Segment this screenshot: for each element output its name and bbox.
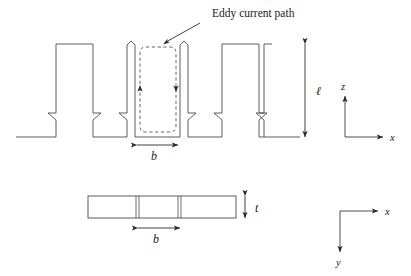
plate-outline (88, 196, 236, 218)
dim-b-label-plan: b (153, 232, 159, 246)
eddy-current-diagram: Eddy current path b ℓ t b z x x y (0, 0, 411, 276)
tooth-3-profile (180, 41, 196, 137)
tooth-4-profile (214, 44, 267, 137)
tooth-2-profile (119, 41, 135, 137)
tooth-5-profile (256, 44, 272, 137)
eddy-current-loop (140, 47, 176, 132)
axis-label-x-elevation: x (389, 132, 395, 143)
axis-label-y: y (335, 257, 341, 268)
callout-arrow-head (163, 39, 170, 45)
figure-container: Eddy current path b ℓ t b z x x y (0, 0, 411, 276)
axes-plan (340, 211, 378, 252)
eddy-arrow-left-up (137, 85, 142, 92)
dim-ell-label: ℓ (316, 84, 321, 98)
axis-label-z: z (340, 81, 345, 92)
axes-elevation (345, 96, 383, 137)
tooth-1-profile (48, 44, 101, 137)
axis-label-x-plan: x (384, 206, 390, 217)
elevation-view (16, 23, 305, 145)
callout-leader-line (166, 23, 200, 42)
dim-b-label-elevation: b (151, 149, 157, 163)
callout-label: Eddy current path (212, 7, 295, 20)
plan-view (88, 196, 245, 228)
dim-t-label: t (255, 201, 259, 215)
